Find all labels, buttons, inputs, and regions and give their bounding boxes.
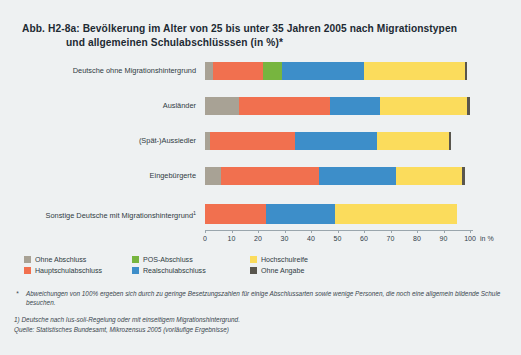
chart-plot-area — [205, 58, 470, 230]
bar-segment[interactable] — [205, 167, 221, 185]
x-axis-tick-label: 80 — [413, 235, 421, 242]
x-axis-tick-label: 100 — [464, 235, 476, 242]
x-axis-tick-label: 10 — [228, 235, 236, 242]
figure-title-line-2: und allgemeinen Schulabschlüsssen (in %)… — [22, 36, 492, 50]
bar-segment[interactable] — [205, 97, 239, 115]
x-axis-tick-label: 60 — [360, 235, 368, 242]
legend-label: Realschulabschluss — [143, 267, 206, 275]
figure-title: Abb. H2-8a: Bevölkerung im Alter von 25 … — [22, 22, 492, 50]
x-axis-tick-mark — [205, 230, 206, 233]
footnotes: * Abweichungen von 100% ergeben sich dur… — [14, 289, 510, 335]
bar-segment[interactable] — [467, 97, 470, 115]
x-axis-tick-mark — [311, 230, 312, 233]
bar-segment[interactable] — [282, 62, 364, 80]
x-axis-tick-mark — [258, 230, 259, 233]
footnote-asterisk-text: Abweichungen von 100% ergeben sich durch… — [26, 290, 500, 306]
legend-item[interactable]: Realschulabschluss — [132, 265, 250, 276]
legend-color-swatch — [132, 256, 139, 263]
x-axis-tick-mark — [391, 230, 392, 233]
x-axis-tick-mark — [338, 230, 339, 233]
legend-color-swatch — [250, 267, 257, 274]
bar-row — [205, 97, 470, 115]
figure-title-line-1: Abb. H2-8a: Bevölkerung im Alter von 25 … — [22, 23, 457, 34]
x-axis-unit-label: in % — [480, 235, 494, 242]
chart-legend: Ohne AbschlussPOS-AbschlussHochschulreif… — [24, 254, 444, 276]
x-axis-line — [205, 230, 473, 231]
legend-color-swatch — [24, 267, 31, 274]
bar-segment[interactable] — [266, 204, 335, 224]
legend-label: Ohne Abschluss — [35, 256, 86, 264]
x-axis-tick-mark — [232, 230, 233, 233]
bar-segment[interactable] — [295, 132, 377, 150]
bar-segment[interactable] — [462, 167, 465, 185]
bar-segment[interactable] — [319, 167, 396, 185]
legend-label: POS-Abschluss — [143, 256, 193, 264]
legend-item[interactable]: Hochschulreife — [250, 254, 370, 265]
legend-color-swatch — [24, 256, 31, 263]
bar-segment[interactable] — [330, 97, 380, 115]
source-line: Quelle: Statistisches Bundesamt, Mikroze… — [14, 325, 510, 334]
x-axis-tick-label: 30 — [281, 235, 289, 242]
x-axis-tick-label: 40 — [307, 235, 315, 242]
x-axis-tick-label: 0 — [203, 235, 207, 242]
bar-segment[interactable] — [205, 204, 266, 224]
x-axis-tick-mark — [417, 230, 418, 233]
category-label-footnote-marker: 1 — [193, 210, 196, 216]
bar-segment[interactable] — [449, 132, 452, 150]
category-label: Eingebürgerte — [0, 171, 196, 180]
bar-segment[interactable] — [210, 132, 295, 150]
legend-label: Ohne Angabe — [261, 267, 304, 275]
x-axis-tick-label: 20 — [254, 235, 262, 242]
x-axis-tick-mark — [364, 230, 365, 233]
bar-segment[interactable] — [377, 132, 449, 150]
legend-color-swatch — [132, 267, 139, 274]
category-label: Sonstige Deutsche mit Migrationshintergr… — [0, 209, 196, 220]
bar-segment[interactable] — [364, 62, 465, 80]
legend-label: Hochschulreife — [261, 256, 308, 264]
legend-item[interactable]: Hauptschulabschluss — [24, 265, 132, 276]
figure-container: Abb. H2-8a: Bevölkerung im Alter von 25 … — [0, 0, 521, 355]
legend-item[interactable]: Ohne Abschluss — [24, 254, 132, 265]
bar-segment[interactable] — [263, 62, 282, 80]
bar-segment[interactable] — [205, 62, 213, 80]
legend-item[interactable]: POS-Abschluss — [132, 254, 250, 265]
category-label: Deutsche ohne Migrationshintergrund — [0, 66, 196, 75]
x-axis-tick-label: 90 — [440, 235, 448, 242]
footnote-one: 1) Deutsche nach Ius-soli-Regelung oder … — [14, 315, 510, 324]
bar-segment[interactable] — [380, 97, 467, 115]
bar-segment[interactable] — [221, 167, 319, 185]
x-axis-tick-mark — [470, 230, 471, 233]
legend-item[interactable]: Ohne Angabe — [250, 265, 370, 276]
category-label: Ausländer — [0, 101, 196, 110]
bar-segment[interactable] — [335, 204, 457, 224]
x-axis-tick-label: 70 — [387, 235, 395, 242]
category-label: (Spät-)Aussiedler — [0, 136, 196, 145]
x-axis-tick-label: 50 — [334, 235, 342, 242]
bar-row — [205, 62, 470, 80]
legend-label: Hauptschulabschluss — [35, 267, 102, 275]
bar-segment[interactable] — [239, 97, 329, 115]
bar-segment[interactable] — [396, 167, 462, 185]
bar-row — [205, 132, 470, 150]
bar-segment[interactable] — [465, 62, 468, 80]
bar-row — [205, 167, 470, 185]
x-axis-tick-mark — [444, 230, 445, 233]
footnote-asterisk: * Abweichungen von 100% ergeben sich dur… — [14, 289, 510, 308]
bar-segment[interactable] — [213, 62, 263, 80]
legend-color-swatch — [250, 256, 257, 263]
footnote-asterisk-marker: * — [16, 289, 19, 298]
bar-row — [205, 204, 470, 224]
x-axis-tick-mark — [285, 230, 286, 233]
